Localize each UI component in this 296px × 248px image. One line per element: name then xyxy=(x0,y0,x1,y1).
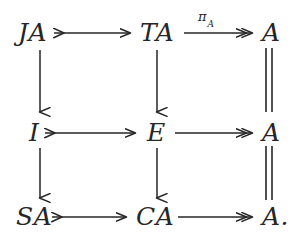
node-label-e: E xyxy=(147,120,166,145)
node-label-a-top: A xyxy=(262,20,281,45)
node-label-ta: TA xyxy=(140,20,174,45)
pi-subscript-a: A xyxy=(208,19,215,29)
pi-symbol: π xyxy=(198,9,207,24)
arrow-label-pi-a: πA xyxy=(198,10,213,27)
node-label-ja: JA xyxy=(18,20,47,45)
node-label-a-bot: A. xyxy=(262,204,289,229)
node-label-i: I xyxy=(29,120,39,145)
node-label-a-mid: A xyxy=(262,120,281,145)
commutative-diagram-figure: JA TA A I E A SA CA A. πA xyxy=(0,0,296,248)
equality-col2-bot xyxy=(266,146,272,200)
node-label-ca: CA xyxy=(136,204,174,229)
node-label-sa: SA xyxy=(16,204,52,229)
equality-col2-top xyxy=(266,48,272,112)
